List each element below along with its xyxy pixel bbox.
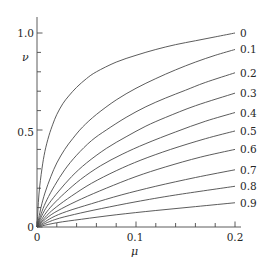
curve-end-label-0-2: 0.2 — [240, 68, 257, 79]
x-axis-title: μ — [131, 246, 138, 257]
curve-0-4 — [37, 113, 235, 227]
curve-0-3 — [37, 93, 235, 227]
curve-0-2 — [37, 73, 235, 227]
curve-end-label-0-5: 0.5 — [240, 126, 257, 137]
x-tick-label-3: 0.2 — [225, 232, 245, 243]
y-tick-label-3: 0 — [8, 222, 34, 233]
curve-end-label-0: 0 — [240, 28, 247, 39]
curve-end-label-0-6: 0.6 — [240, 144, 257, 155]
axis-ticks — [37, 33, 235, 227]
curve-0-1 — [37, 49, 235, 227]
curve-0-7 — [37, 170, 235, 227]
curve-end-label-0-7: 0.7 — [240, 165, 257, 176]
y-axis-title: ν — [22, 52, 29, 63]
x-tick-label-2: 0.1 — [125, 232, 145, 243]
plot-area — [0, 0, 276, 265]
y-tick-label-1: 1.0 — [8, 28, 34, 39]
curve-0 — [37, 33, 235, 227]
curve-0-6 — [37, 149, 235, 227]
axis-lines — [37, 17, 241, 227]
curve-lines — [37, 33, 235, 227]
curve-end-label-0-3: 0.3 — [240, 88, 257, 99]
x-tick-label-1: 0 — [27, 232, 47, 243]
y-tick-label-2: 0.5 — [8, 127, 34, 138]
curve-end-label-0-4: 0.4 — [240, 108, 257, 119]
curve-end-label-0-1: 0.1 — [240, 44, 257, 55]
curve-end-label-0-8: 0.8 — [240, 181, 257, 192]
chart-figure: 1.0 0.5 0 ν 0 0.1 0.2 μ 00.10.20.30.40.5… — [0, 0, 276, 265]
curve-end-label-0-9: 0.9 — [240, 198, 257, 209]
